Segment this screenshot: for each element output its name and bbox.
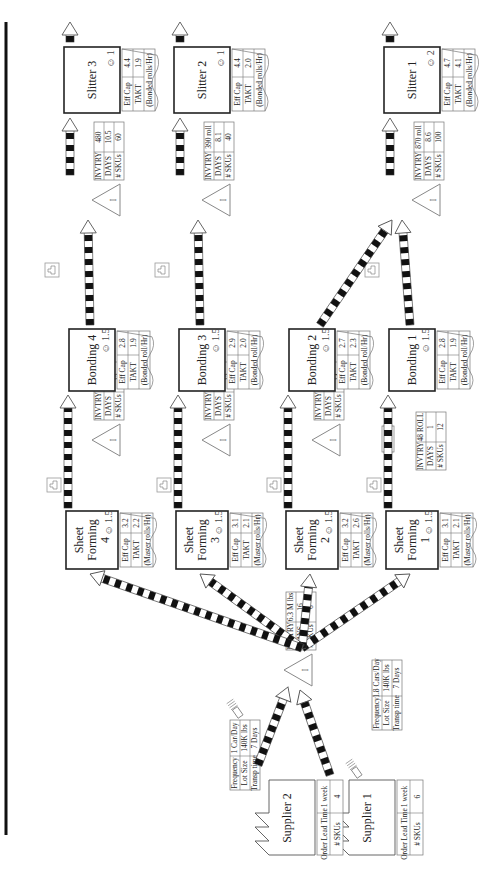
supplier-2-table: Order Lead Time1 week# SKUs4	[317, 780, 343, 860]
slitter-3-data: Eff Cap4.4TAKT1.9(Bonded rolls/Hr)	[122, 49, 159, 111]
arrowhead-icon	[62, 118, 78, 131]
process-name: 3	[208, 537, 222, 543]
push-arrow-shaft	[100, 574, 303, 652]
table-label: # SKUs	[436, 444, 445, 468]
operator-icon: ☺ 1.5	[100, 328, 111, 353]
table-label: TAKT	[129, 362, 138, 382]
table-label: TAKT	[349, 362, 358, 382]
table-label: INVTRY	[416, 441, 425, 470]
table-value: 8.1	[214, 132, 223, 142]
supplier-2-shipment-table: Frequency1 Car/DayLot Size140K lbsTransp…	[230, 720, 260, 791]
truck-icon-supplier-2	[227, 699, 244, 719]
pull-signal-icon-1	[367, 478, 381, 492]
push-arrow-sf-4-to-bonding-4	[60, 395, 76, 508]
push-arrow-slitter-1-out	[382, 22, 398, 42]
table-value: 2.7	[338, 338, 347, 348]
table-value: 10.5	[104, 130, 113, 143]
bonding-2: Bonding 2☺ 1.5	[289, 328, 335, 391]
push-arrow-sf-2-to-bonding-2	[280, 395, 296, 508]
slitter-2-data: Eff Cap4.4TAKT2.0(Bonded rolls/Hr)	[232, 49, 269, 111]
table-label: TAKT	[452, 540, 461, 560]
push-arrow-shaft	[176, 130, 184, 175]
push-arrow-inv-to-slitter-2	[172, 118, 188, 175]
table-label: DAYS	[324, 396, 333, 416]
inventory-after-bonding-1: I	[412, 184, 440, 216]
table-label: Eff Cap	[123, 82, 132, 106]
operator-icon: ☺ 1.5	[420, 328, 431, 353]
table-label: Eff Cap	[441, 538, 450, 562]
pull-signal-icon-post-2	[155, 263, 169, 277]
slitter-1-data: Eff Cap4.7TAKT4.1(Bonded rolls/Hr)	[442, 49, 479, 111]
table-value: 2.3	[349, 338, 358, 348]
table-value: 100	[434, 131, 443, 143]
table-value: 40	[224, 133, 233, 141]
table-label: DAYS	[104, 156, 113, 176]
process-name: Forming	[305, 519, 319, 560]
push-arrow-slitter-2-out	[172, 22, 188, 42]
arrowhead-icon	[382, 118, 398, 131]
sheet-forming-1: SheetForming1☺ 1.5	[386, 510, 438, 569]
table-value: 4.1	[454, 58, 463, 68]
table-value: 1.9	[449, 338, 458, 348]
inventory-after-bonding-1-table: INVTRY870 rollDAYS8.6# SKUs100	[414, 122, 444, 180]
sheet-forming-4-data: Eff Cap3.2TAKT2.2(Master rolls/Hr)	[120, 513, 157, 567]
supplier-1: Supplier 1	[335, 780, 395, 855]
operator-icon: ☺ 1.5	[423, 510, 434, 535]
table-value: 4.4	[233, 58, 242, 68]
arrowhead-icon	[80, 220, 96, 233]
sheet-forming-2: SheetForming2☺ 1.5	[286, 510, 338, 569]
operator-icon: ☺ 1.5	[323, 510, 334, 535]
arrowhead-icon	[382, 22, 398, 35]
process-name: Bonding 4	[85, 335, 99, 385]
table-label: TAKT	[352, 540, 361, 560]
table-label: Eff Cap	[338, 360, 347, 384]
pull-signal-icon-post-1	[365, 263, 379, 277]
vsm-svg: Supplier 1Order Lead Time1 week# SKUs6Su…	[0, 0, 499, 880]
operator-icon: ☺ 1.5	[103, 510, 114, 535]
arrowhead-icon	[190, 220, 206, 233]
table-label: # SKUs	[434, 154, 443, 178]
table-label: INVTRY	[414, 151, 423, 180]
table-value: 1 week	[320, 786, 329, 808]
table-label: TAKT	[242, 540, 251, 560]
pull-signal-frame	[157, 478, 171, 492]
table-value: 8.6	[424, 132, 433, 142]
truck-body	[351, 767, 362, 779]
table-label: # SKUs	[114, 394, 123, 418]
table-value: 2.0	[239, 338, 248, 348]
table-label: Order Lead Time	[400, 808, 409, 860]
table-value: 3.2	[341, 518, 350, 528]
table-label: DAYS	[214, 156, 223, 176]
table-label: # SKUs	[334, 394, 343, 418]
table-label: Frequency	[230, 757, 239, 789]
push-arrow-shaft	[284, 407, 292, 508]
table-value: 1.8 Cars/Day	[372, 658, 381, 698]
pull-signal-frame	[47, 478, 61, 492]
bonding-4: Bonding 4☺ 1.5	[69, 328, 115, 391]
bonding-1-data: Eff Cap2.8TAKT1.9(Bonded roll/Hr)	[437, 331, 474, 389]
table-value: 2.8	[438, 338, 447, 348]
table-label: TAKT	[134, 84, 143, 104]
push-arrow-bonding-1-to-inv	[394, 219, 418, 325]
process-name: Forming	[85, 519, 99, 560]
table-label: TAKT	[449, 362, 458, 382]
table-label: INVTRY	[94, 151, 103, 180]
pull-signal-frame	[155, 263, 169, 277]
table-label: Lot Size	[382, 700, 391, 726]
table-value: 6.3 M lbs	[286, 593, 295, 622]
inventory-glyph: I	[219, 198, 228, 201]
pull-signal-icon-4	[47, 478, 61, 492]
table-label: Order Lead Time	[320, 808, 329, 860]
supplier-name: Supplier 2	[280, 793, 294, 843]
inventory-glyph: I	[109, 198, 118, 201]
table-label: # SKUs	[413, 822, 422, 846]
supplier-name: Supplier 1	[360, 793, 374, 843]
sheet-forming-3: SheetForming3☺ 1.5	[176, 510, 228, 569]
table-label: # SKUs	[224, 154, 233, 178]
table-label: Frequency	[372, 697, 381, 729]
table-label: INVTRY	[94, 391, 103, 420]
fifo-inventory-table: INVTRY48 ROLLDAYS1# SKUs12	[416, 412, 446, 470]
push-arrow-shaft	[399, 232, 414, 326]
process-name: 1	[418, 537, 432, 543]
table-value: 1 Car/Day	[230, 722, 239, 753]
